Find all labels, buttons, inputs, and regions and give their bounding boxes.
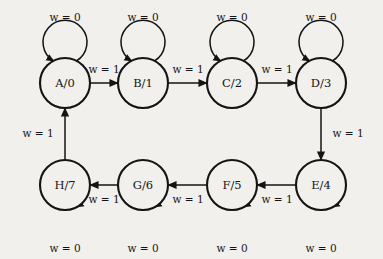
transition-label: w = 1 xyxy=(332,127,363,139)
self-loop-label: w = 0 xyxy=(49,11,80,23)
self-loop-path xyxy=(121,20,165,61)
transition-D-to-E: w = 1 xyxy=(321,108,364,160)
state-nodes: A/0 B/1 C/2 D/3 E/4 F/5 xyxy=(40,58,346,210)
state-node-E[interactable]: E/4 xyxy=(296,160,346,210)
self-loop-D: w = 0 xyxy=(299,11,343,61)
fsm-canvas: w = 1 w = 1 w = 1 w = 1 w = 1 xyxy=(0,0,383,259)
state-label: F/5 xyxy=(222,178,241,192)
transition-H-to-A: w = 1 xyxy=(22,108,65,160)
self-loop-label: w = 0 xyxy=(305,11,336,23)
state-node-H[interactable]: H/7 xyxy=(40,160,90,210)
self-loop-label: w = 0 xyxy=(216,242,247,254)
transition-B-to-C: w = 1 xyxy=(168,63,207,83)
self-loop-label: w = 0 xyxy=(127,11,158,23)
transition-label: w = 1 xyxy=(261,193,292,205)
state-node-D[interactable]: D/3 xyxy=(296,58,346,108)
state-node-B[interactable]: B/1 xyxy=(118,58,168,108)
transition-C-to-D: w = 1 xyxy=(257,63,296,83)
transition-label: w = 1 xyxy=(261,63,292,75)
transition-label: w = 1 xyxy=(22,127,53,139)
transition-label: w = 1 xyxy=(88,63,119,75)
transition-A-to-B: w = 1 xyxy=(88,63,119,83)
self-loop-label: w = 0 xyxy=(49,242,80,254)
transition-G-to-H: w = 1 xyxy=(88,185,119,205)
transition-E-to-F: w = 1 xyxy=(257,185,296,205)
state-node-F[interactable]: F/5 xyxy=(207,160,257,210)
state-node-C[interactable]: C/2 xyxy=(207,58,257,108)
self-loop-label: w = 0 xyxy=(305,242,336,254)
state-node-G[interactable]: G/6 xyxy=(118,160,168,210)
self-loop-label: w = 0 xyxy=(216,11,247,23)
state-diagram: w = 1 w = 1 w = 1 w = 1 w = 1 xyxy=(0,0,383,259)
self-loop-label: w = 0 xyxy=(127,242,158,254)
state-label: C/2 xyxy=(222,76,242,90)
state-node-A[interactable]: A/0 xyxy=(40,58,90,108)
state-label: B/1 xyxy=(133,76,153,90)
self-loop-path xyxy=(299,20,343,61)
self-loops-top: w = 0 w = 0 w = 0 w = 0 xyxy=(43,11,343,61)
self-loop-path xyxy=(43,20,87,61)
transition-label: w = 1 xyxy=(172,63,203,75)
self-loop-B: w = 0 xyxy=(121,11,165,61)
state-label: G/6 xyxy=(133,178,153,192)
transition-label: w = 1 xyxy=(88,193,119,205)
state-label: D/3 xyxy=(311,76,331,90)
transition-F-to-G: w = 1 xyxy=(168,185,207,205)
self-loop-path xyxy=(210,20,254,61)
state-label: E/4 xyxy=(311,178,331,192)
state-label: H/7 xyxy=(54,178,75,192)
self-loop-C: w = 0 xyxy=(210,11,254,61)
state-label: A/0 xyxy=(54,76,75,90)
transition-label: w = 1 xyxy=(172,193,203,205)
self-loop-A: w = 0 xyxy=(43,11,87,61)
